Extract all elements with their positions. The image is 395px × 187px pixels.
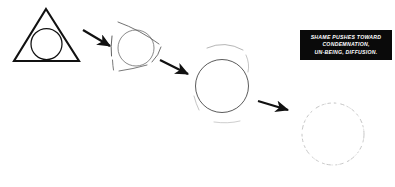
stage-2-triangle-edge-left-upper bbox=[111, 36, 112, 56]
stage-3-triangle-fragments bbox=[194, 44, 249, 122]
stage-1-triangle bbox=[14, 9, 79, 61]
arrow-2-shaft bbox=[160, 60, 188, 74]
caption-line-1: SHAME PUSHES TOWARD bbox=[311, 34, 382, 42]
stage-2-fracturing-triangle-with-circle bbox=[111, 22, 161, 71]
stage-2-triangle-edge-right bbox=[152, 47, 161, 62]
stage-3-fragment-bottom bbox=[214, 121, 240, 123]
stage-4-dissolving-circle bbox=[302, 103, 364, 165]
arrow-2 bbox=[160, 60, 188, 74]
stage-4-circle-outline bbox=[302, 103, 364, 165]
stage-1-circle bbox=[31, 29, 62, 60]
caption-line-2: CONDEMNATION, bbox=[322, 41, 369, 49]
progression-diagram bbox=[0, 0, 395, 187]
shame-caption-box: SHAME PUSHES TOWARD CONDEMNATION, UN-BEI… bbox=[300, 30, 392, 60]
arrow-3-shaft bbox=[258, 101, 288, 110]
stage-3-circle bbox=[196, 60, 249, 113]
arrow-3 bbox=[258, 101, 288, 110]
diagram-canvas: SHAME PUSHES TOWARD CONDEMNATION, UN-BEI… bbox=[0, 0, 395, 187]
stage-3-fading-triangle-with-circle bbox=[194, 44, 249, 122]
caption-line-3: UN-BEING, DIFFUSION. bbox=[315, 49, 378, 57]
stage-3-fragment-top bbox=[207, 44, 243, 50]
arrow-1-shaft bbox=[83, 30, 110, 46]
stage-1-intact-triangle-with-circle bbox=[14, 9, 79, 61]
stage-3-fragment-right bbox=[246, 55, 249, 72]
arrow-1 bbox=[83, 30, 110, 46]
stage-2-circle bbox=[118, 30, 154, 66]
stage-2-triangle-edge-left-lower bbox=[113, 60, 114, 70]
